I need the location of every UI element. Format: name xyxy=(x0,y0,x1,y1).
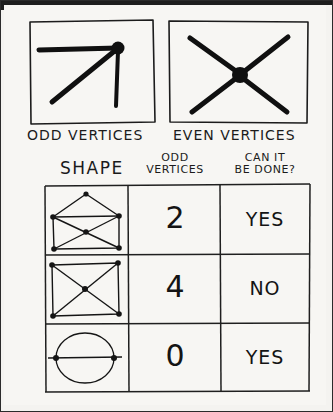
table-row-1-odd-vertices: 2 xyxy=(130,200,220,235)
lens-with-axis-graph xyxy=(48,333,122,383)
square-with-diagonals-graph xyxy=(49,260,122,319)
table-row1-divider xyxy=(45,254,310,255)
table-col1-divider xyxy=(128,185,129,392)
table-left-border xyxy=(45,186,46,392)
table-row-3-odd-vertices: 0 xyxy=(130,338,220,373)
table-row-1-can-it-be-done: YES xyxy=(221,208,309,230)
table-right-border xyxy=(309,184,310,391)
table-row2-divider xyxy=(45,323,310,324)
page-canvas: ODD VERTICES EVEN VERTICES SHAPE ODD VER… xyxy=(0,0,333,412)
envelope-graph xyxy=(50,191,122,251)
table-bottom-border xyxy=(45,391,310,392)
table-row-2-can-it-be-done: NO xyxy=(221,277,309,299)
table-row-2-odd-vertices: 4 xyxy=(130,269,220,304)
table-row-3-can-it-be-done: YES xyxy=(221,346,309,368)
envelope-vertices xyxy=(50,191,122,251)
table-top-border xyxy=(45,184,310,186)
